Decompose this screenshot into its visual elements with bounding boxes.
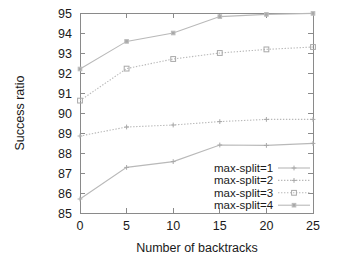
legend-label-2: max-split=2 bbox=[214, 174, 273, 186]
data-point-marker bbox=[311, 12, 315, 16]
legend-label-3: max-split=3 bbox=[214, 187, 273, 199]
series-4 bbox=[78, 12, 315, 71]
y-tick-label: 93 bbox=[58, 47, 72, 61]
series-line-4 bbox=[80, 13, 313, 69]
series-line-3 bbox=[80, 47, 313, 101]
x-tick-label: 0 bbox=[77, 219, 84, 233]
y-tick-label: 88 bbox=[58, 147, 72, 161]
chart-figure: 8586878889909192939495 0510152025 max-sp… bbox=[0, 0, 340, 259]
x-axis-tick-labels: 0510152025 bbox=[77, 219, 320, 233]
y-axis-title: Success ratio bbox=[13, 75, 27, 150]
data-point-marker bbox=[125, 40, 129, 44]
y-tick-label: 86 bbox=[58, 187, 72, 201]
plot-border bbox=[80, 13, 313, 213]
legend-label-1: max-split=1 bbox=[214, 162, 273, 174]
series-1 bbox=[78, 141, 316, 201]
y-tick-label: 90 bbox=[58, 107, 72, 121]
y-tick-label: 89 bbox=[58, 127, 72, 141]
tick-marks bbox=[80, 13, 313, 213]
plot-frame bbox=[80, 13, 313, 213]
data-point-marker bbox=[78, 67, 82, 71]
y-tick-label: 87 bbox=[58, 167, 72, 181]
x-tick-label: 15 bbox=[213, 219, 227, 233]
data-point-marker bbox=[171, 31, 175, 35]
y-tick-label: 85 bbox=[58, 207, 72, 221]
x-tick-label: 25 bbox=[306, 219, 320, 233]
y-tick-label: 94 bbox=[58, 27, 72, 41]
legend-label-4: max-split=4 bbox=[214, 199, 274, 211]
series-line-2 bbox=[80, 119, 313, 136]
x-tick-label: 5 bbox=[123, 219, 130, 233]
success-ratio-line-chart: 8586878889909192939495 0510152025 max-sp… bbox=[0, 0, 340, 259]
y-tick-label: 91 bbox=[58, 87, 72, 101]
data-point-marker bbox=[292, 203, 296, 207]
data-series-group bbox=[78, 12, 316, 202]
x-axis-title: Number of backtracks bbox=[136, 241, 258, 255]
y-tick-label: 95 bbox=[58, 7, 72, 21]
series-3 bbox=[78, 45, 316, 103]
data-point-marker bbox=[265, 13, 269, 17]
x-tick-label: 10 bbox=[166, 219, 180, 233]
series-line-1 bbox=[80, 143, 313, 199]
y-axis-tick-labels: 8586878889909192939495 bbox=[58, 7, 72, 221]
chart-legend: max-split=1max-split=2max-split=3max-spl… bbox=[214, 162, 310, 211]
y-tick-label: 92 bbox=[58, 67, 72, 81]
x-tick-label: 20 bbox=[259, 219, 273, 233]
data-point-marker bbox=[218, 15, 222, 19]
series-2 bbox=[78, 117, 316, 138]
